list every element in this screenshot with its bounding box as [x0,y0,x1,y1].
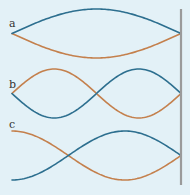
standing-waves-diagram: abc [0,0,190,195]
panel-label: a [9,17,16,30]
background [0,0,190,195]
panel-label: b [9,78,16,91]
panel-label: c [9,118,15,131]
